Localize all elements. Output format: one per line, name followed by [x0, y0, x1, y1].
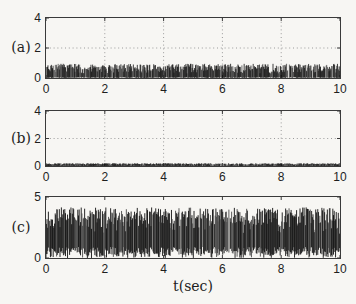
x-tick-label: 0: [35, 263, 57, 276]
x-tick-label: 6: [211, 83, 233, 96]
x-tick-label: 8: [270, 83, 292, 96]
x-tick-label: 8: [270, 171, 292, 184]
x-tick-label: 8: [270, 263, 292, 276]
y-tick-label: 4: [25, 11, 41, 25]
subplot-b-axes: [45, 110, 341, 167]
x-tick-label: 4: [153, 171, 175, 184]
x-tick-label: 6: [211, 171, 233, 184]
x-tick-label: 4: [153, 263, 175, 276]
subplot-a-axes: [45, 17, 341, 79]
y-tick-label: 5: [25, 190, 41, 204]
noise-signals-figure: (a) (b) (c) t(sec) 024024681002402468100…: [0, 0, 356, 304]
subplot-c-axes: [45, 196, 341, 259]
signal-plot-c: [46, 197, 340, 258]
x-tick-label: 10: [329, 171, 351, 184]
panel-label-c: (c): [8, 219, 34, 235]
x-tick-label: 10: [329, 263, 351, 276]
y-tick-label: 2: [25, 41, 41, 55]
signal-plot-a: [46, 18, 340, 78]
signal-plot-b: [46, 111, 340, 166]
y-tick-label: 2: [25, 132, 41, 146]
x-tick-label: 2: [94, 171, 116, 184]
x-tick-label: 0: [35, 171, 57, 184]
x-axis-title: t(sec): [153, 278, 233, 294]
x-tick-label: 2: [94, 83, 116, 96]
x-tick-label: 6: [211, 263, 233, 276]
x-tick-label: 4: [153, 83, 175, 96]
y-tick-label: 4: [25, 104, 41, 118]
x-tick-label: 0: [35, 83, 57, 96]
x-tick-label: 2: [94, 263, 116, 276]
x-tick-label: 10: [329, 83, 351, 96]
